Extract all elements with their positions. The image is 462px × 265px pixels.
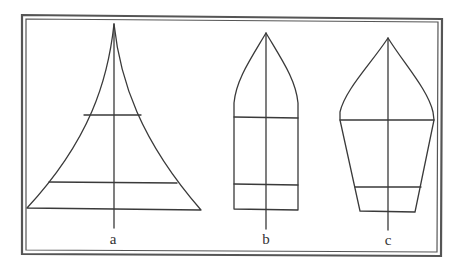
shape-a <box>27 24 201 228</box>
shape-b <box>234 33 298 229</box>
shape-a-lower-crossbar <box>49 182 177 183</box>
shape-a-label: a <box>110 232 117 247</box>
shape-c-outline <box>340 38 434 212</box>
diagram-canvas <box>0 0 462 265</box>
shape-c <box>340 38 434 230</box>
shape-c-label: c <box>385 233 392 248</box>
shape-b-label: b <box>262 232 270 247</box>
